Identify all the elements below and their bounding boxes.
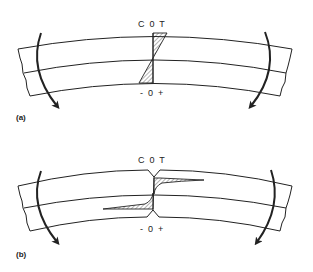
bottom-stress-label: - 0 +: [140, 224, 163, 234]
beam-right-break: [280, 186, 292, 231]
beam-left-break: [18, 186, 30, 231]
bottom-stress-label: - 0 +: [140, 88, 163, 98]
top-stress-label: C 0 T: [138, 155, 165, 165]
panel-a: C 0 T - 0 + (a): [16, 19, 292, 122]
zero-stress-line: [153, 177, 154, 210]
panel-b-caption: (b): [16, 250, 27, 259]
panel-a-caption: (a): [16, 113, 26, 122]
compression-stress-triangle: [139, 58, 153, 83]
beam-neutral-axis: [24, 60, 286, 73]
tension-stress-concentration: [154, 178, 204, 194]
tension-stress-triangle: [153, 33, 167, 58]
panel-b: C 0 T - 0 + (b): [16, 155, 292, 259]
top-stress-label: C 0 T: [138, 19, 165, 29]
beam-neutral-axis: [24, 195, 286, 208]
bending-stress-diagram: C 0 T - 0 + (a) C 0 T - 0 + (b): [0, 0, 313, 272]
